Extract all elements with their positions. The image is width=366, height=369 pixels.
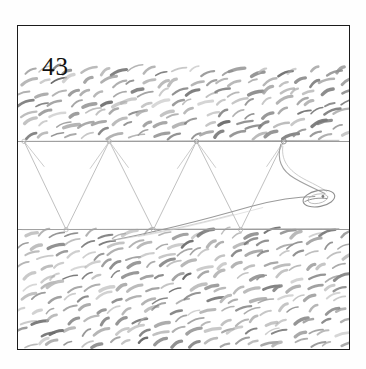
truss-brace-6 — [267, 141, 284, 166]
truss-brace-4 — [177, 141, 196, 168]
truss-brace-2 — [90, 141, 109, 168]
truss-diagonal-6 — [241, 141, 284, 229]
plate-number-label: 43 — [42, 54, 69, 79]
truss-diagonal-2 — [66, 141, 109, 229]
eel-body-dorsal-curve — [283, 146, 327, 191]
truss-diagonal-1 — [24, 141, 66, 229]
truss-brace-3 — [109, 141, 128, 167]
eel-creature — [110, 144, 336, 240]
truss-brace-5 — [197, 141, 216, 167]
truss-diagonal-5 — [197, 141, 241, 229]
truss-diagonal-4 — [153, 141, 196, 229]
truss-bottom-chord — [22, 229, 339, 230]
eel-eye-dot — [322, 195, 325, 198]
figure-frame: 43 — [17, 25, 350, 350]
truss-diagonal-3 — [109, 141, 153, 229]
truss-structure — [22, 139, 339, 232]
plate-container: 43 — [0, 0, 366, 369]
truss-top-chord — [24, 140, 339, 141]
eel-body-lower-outline — [110, 197, 315, 241]
